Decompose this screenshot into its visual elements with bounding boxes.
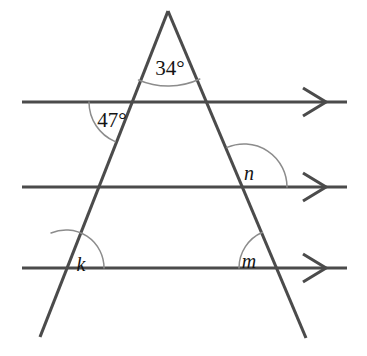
geometry-figure: 34° 47° n k m [0,0,367,356]
apex-angle-label: 34° [155,56,184,80]
geometry-canvas: 34° 47° n k m [0,0,367,356]
right-middle-angle-label: n [244,162,254,184]
right-middle-angle-arc [227,144,287,187]
apex-angle-arc [139,79,200,86]
left-lower-angle-label: k [77,253,87,275]
upper-left-angle-label: 47° [97,108,126,132]
right-lower-angle-label: m [242,250,256,272]
triangle-left-leg [40,11,168,337]
